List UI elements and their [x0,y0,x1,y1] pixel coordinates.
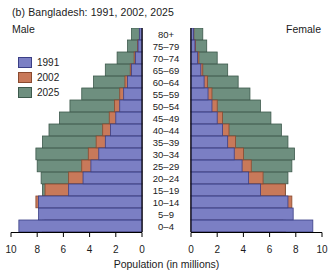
tick-label-female-8: 8 [293,244,299,255]
bar-1991-female-30–34 [191,148,234,160]
x-axis-title: Population (in millions) [0,258,333,270]
bar-1991-female-25–29 [191,160,242,172]
bar-1991-male-55–59 [124,88,142,100]
bar-1991-male-45–49 [116,112,142,124]
tick-label-female-6: 6 [267,244,273,255]
bar-1991-female-15–19 [191,184,260,196]
bar-1991-female-55–59 [191,88,208,100]
bar-1991-female-5–9 [191,208,293,220]
bar-1991-male-15–19 [69,184,142,196]
bar-1991-female-35–39 [191,136,228,148]
tick-label-male-6: 6 [61,244,67,255]
tick-label-male-2: 2 [113,244,119,255]
bar-1991-male-65–69 [132,64,142,76]
x-axis: 10864200246810 Population (in millions) [0,232,333,272]
age-label-20–24: 20–24 [143,174,189,184]
age-label-55–59: 55–59 [143,90,189,100]
tick-label-male-8: 8 [34,244,40,255]
age-label-25–29: 25–29 [143,162,189,172]
age-label-50–54: 50–54 [143,102,189,112]
age-label-80+: 80+ [143,30,189,40]
bar-1991-male-25–29 [91,160,142,172]
age-label-0–4: 0–4 [143,222,189,232]
bar-1991-male-0–4 [19,220,142,232]
tick-label-female-2: 2 [214,244,220,255]
age-label-35–39: 35–39 [143,138,189,148]
bar-1991-female-0–4 [191,220,313,232]
tick-label-male-0: 0 [139,244,145,255]
age-label-60–64: 60–64 [143,78,189,88]
bar-1991-male-60–64 [128,76,142,88]
bar-1991-female-20–24 [191,172,249,184]
figure-title: (b) Bangladesh: 1991, 2002, 2025 [12,6,174,18]
bar-1991-female-40–44 [191,124,222,136]
age-label-70–74: 70–74 [143,54,189,64]
bar-1991-male-50–54 [120,100,142,112]
age-label-75–79: 75–79 [143,42,189,52]
tick-label-female-0: 0 [188,244,194,255]
age-label-15–19: 15–19 [143,186,189,196]
bar-1991-male-35–39 [105,136,142,148]
bar-1991-male-40–44 [111,124,142,136]
bar-1991-female-75–79 [191,40,195,52]
bar-1991-female-10–14 [191,196,288,208]
bar-1991-male-70–74 [135,52,142,64]
bar-1991-female-45–49 [191,112,217,124]
age-label-40–44: 40–44 [143,126,189,136]
bar-1991-female-65–69 [191,64,201,76]
tick-label-male-10: 10 [5,244,16,255]
age-label-10–14: 10–14 [143,198,189,208]
age-label-45–49: 45–49 [143,114,189,124]
bar-1991-female-50–54 [191,100,212,112]
bar-1991-female-60–64 [191,76,204,88]
age-label-5–9: 5–9 [143,210,189,220]
population-pyramid-figure: (b) Bangladesh: 1991, 2002, 2025 Male Fe… [0,0,333,272]
tick-label-male-4: 4 [87,244,93,255]
x-axis-ticks [0,232,333,244]
tick-label-female-4: 4 [241,244,247,255]
bar-1991-male-10–14 [39,196,142,208]
bar-1991-male-75–79 [138,40,142,52]
bar-1991-male-5–9 [39,208,142,220]
bar-1991-male-30–34 [99,148,142,160]
bar-1991-male-20–24 [83,172,142,184]
age-label-65–69: 65–69 [143,66,189,76]
bar-1991-female-70–74 [191,52,198,64]
tick-label-female-10: 10 [316,244,327,255]
age-label-30–34: 30–34 [143,150,189,160]
